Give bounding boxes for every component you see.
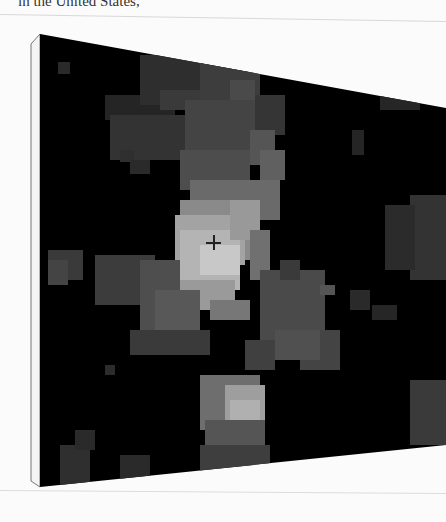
canvas-print-image	[0, 0, 446, 522]
crosshair-icon	[206, 235, 221, 250]
